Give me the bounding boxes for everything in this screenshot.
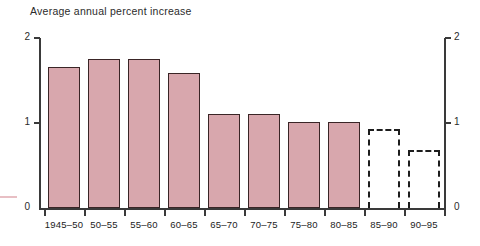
x-tick-2 (124, 210, 126, 216)
bar-75-80[interactable] (288, 122, 320, 208)
x-axis-baseline (39, 208, 446, 210)
bar-50-55[interactable] (88, 59, 120, 208)
y-axis-right (444, 38, 446, 210)
bar-85-90[interactable] (368, 129, 400, 208)
y-axis-label-left-2: 2 (0, 31, 30, 42)
x-tick-end (444, 210, 446, 216)
chart-figure: Average annual percent increase 00112219… (0, 0, 480, 246)
bar-90-95[interactable] (408, 150, 440, 208)
y-axis-label-right-1: 1 (454, 116, 460, 127)
y-tick-left-1 (34, 122, 40, 124)
x-tick-3 (164, 210, 166, 216)
bar-70-75[interactable] (248, 114, 280, 208)
x-tick-4 (204, 210, 206, 216)
x-tick-6 (284, 210, 286, 216)
chart-title: Average annual percent increase (30, 5, 192, 17)
x-tick-7 (324, 210, 326, 216)
y-axis-label-right-2: 2 (454, 31, 460, 42)
x-tick-8 (364, 210, 366, 216)
y-tick-right-2 (445, 37, 451, 39)
y-axis-label-right-0: 0 (454, 201, 460, 212)
x-tick-9 (404, 210, 406, 216)
y-tick-right-1 (445, 122, 451, 124)
x-tick-5 (244, 210, 246, 216)
x-tick-0 (44, 210, 46, 216)
y-axis-label-left-1: 1 (0, 116, 30, 127)
bar-60-65[interactable] (168, 73, 200, 208)
x-tick-1 (84, 210, 86, 216)
bar-1945-50[interactable] (48, 67, 80, 208)
bar-55-60[interactable] (128, 59, 160, 208)
scan-artifact-mark (0, 196, 17, 198)
y-axis-label-left-0: 0 (0, 201, 30, 212)
bar-80-85[interactable] (328, 122, 360, 208)
bar-65-70[interactable] (208, 114, 240, 208)
x-axis-label-90-95: 90–95 (394, 219, 454, 230)
y-tick-left-2 (34, 37, 40, 39)
y-axis-left (39, 38, 41, 210)
